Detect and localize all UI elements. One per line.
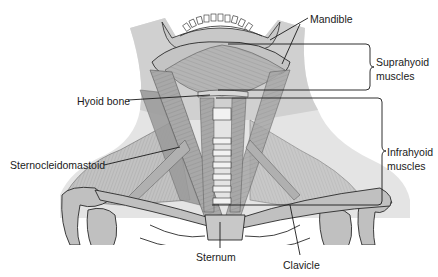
neck-illustration xyxy=(0,0,438,277)
label-sternocleidomastoid: Sternocleidomastoid xyxy=(10,159,105,171)
label-infrahyoid-line1: Infrahyoid xyxy=(387,146,433,158)
label-clavicle: Clavicle xyxy=(283,259,320,271)
label-sternum: Sternum xyxy=(196,251,236,263)
label-suprahyoid-line1: Suprahyoid xyxy=(376,56,429,68)
label-hyoid-bone: Hyoid bone xyxy=(77,95,130,107)
label-suprahyoid-line2: muscles xyxy=(376,70,415,82)
label-infrahyoid-line2: muscles xyxy=(387,160,426,172)
label-mandible: Mandible xyxy=(310,13,353,25)
anatomy-diagram: Mandible Hyoid bone Suprahyoid muscles I… xyxy=(0,0,438,277)
suprahyoid-brace xyxy=(366,44,374,90)
